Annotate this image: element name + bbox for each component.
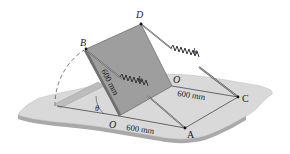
- label-B: B: [80, 37, 86, 48]
- label-O-bottom: O: [109, 119, 116, 130]
- label-theta: θ: [95, 104, 99, 113]
- point-C: [237, 96, 240, 99]
- label-C: C: [242, 93, 249, 104]
- label-O-top: O: [173, 74, 180, 85]
- point-A: [184, 127, 187, 130]
- label-D: D: [135, 9, 144, 20]
- mechanics-diagram: D B O O A C k k θ 600 mm 600 mm 600 mm: [0, 0, 290, 154]
- point-B: [85, 48, 88, 51]
- label-A: A: [187, 129, 195, 140]
- point-D: [140, 23, 143, 26]
